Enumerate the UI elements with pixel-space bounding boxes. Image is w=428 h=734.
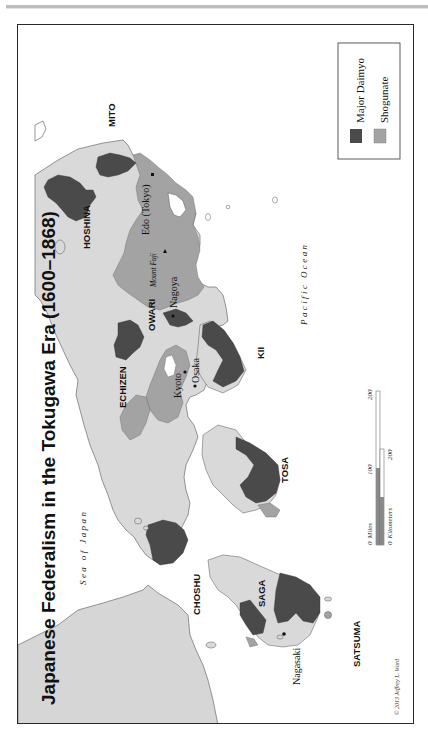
label-kii: KII — [255, 347, 266, 359]
map-frame: Major Daimyo Shogunate Japanese Federali… — [17, 24, 414, 724]
legend-swatch-major-daimyo — [350, 129, 362, 143]
label-owari: OWARI — [146, 299, 157, 331]
pacific-ocean-label: Pacific Ocean — [299, 243, 309, 326]
top-rule — [6, 5, 428, 9]
legend: Major Daimyo Shogunate — [338, 43, 400, 159]
scale-km-200: 200 — [386, 449, 394, 460]
label-nagasaki: Nagasaki — [291, 648, 302, 685]
kyoto-marker-icon — [183, 370, 186, 373]
label-kyoto: Kyoto — [172, 373, 183, 398]
island — [273, 197, 278, 203]
label-nagoya: Nagoya — [168, 276, 179, 308]
island — [135, 518, 142, 524]
osaka-marker-icon — [193, 384, 196, 387]
label-tosa: TOSA — [279, 457, 290, 483]
label-echizen: ECHIZEN — [117, 366, 128, 408]
map-canvas: Major Daimyo Shogunate Japanese Federali… — [18, 25, 414, 724]
label-saga: SAGA — [256, 579, 267, 607]
island — [277, 635, 283, 639]
scale-miles-200: 200 — [366, 389, 374, 400]
label-edo: Edo (Tokyo) — [140, 184, 152, 235]
legend-box — [338, 43, 400, 159]
copyright-credit: © 2013 Jeffrey L. Ward — [394, 658, 400, 715]
island — [325, 597, 332, 601]
nagasaki-marker-icon — [282, 632, 286, 636]
label-hoshina: HOSHINA — [81, 205, 92, 249]
nagoya-marker-icon — [171, 314, 174, 317]
label-satsuma: SATSUMA — [351, 621, 362, 667]
island — [144, 526, 149, 530]
sea-of-japan-label: Sea of Japan — [78, 510, 88, 585]
scale-bar: 0Miles 100 200 0Kilometers 200 — [366, 389, 394, 545]
legend-label-major-daimyo: Major Daimyo — [354, 57, 366, 123]
shogunate-shikoku — [258, 503, 280, 517]
label-mount-fuji: Mount Fuji — [149, 253, 158, 288]
label-choshu: CHOSHU — [191, 574, 202, 615]
island — [206, 214, 211, 221]
scale-km-label: 0Kilometers — [386, 508, 394, 545]
map-title: Japanese Federalism in the Tokugawa Era … — [38, 211, 59, 705]
label-osaka: Osaka — [190, 357, 201, 383]
island — [226, 205, 230, 209]
edo-marker-icon — [151, 173, 154, 176]
scale-miles-label: 0Miles — [366, 523, 374, 545]
shogunate-nagasaki — [246, 637, 258, 647]
island — [325, 612, 332, 619]
legend-label-shogunate: Shogunate — [378, 76, 390, 123]
northern-inlet — [35, 121, 46, 141]
island — [206, 642, 216, 648]
scale-miles-100: 100 — [366, 464, 374, 475]
legend-swatch-shogunate — [374, 129, 386, 143]
label-mito: MITO — [106, 103, 117, 127]
